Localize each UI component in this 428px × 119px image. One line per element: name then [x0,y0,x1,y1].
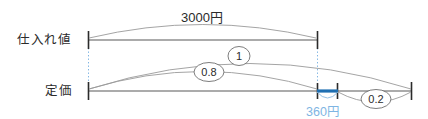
ratio-point2-badge-label: 0.2 [363,93,389,105]
list-price-row-label: 定価 [45,80,72,99]
ratio-one-arc [89,64,411,90]
segment-diagram-canvas: 仕入れ値 定価 3000円 360円 1 0.8 0.2 [0,0,428,119]
difference-arc-blue [317,92,338,98]
ratio-one-badge-label: 1 [231,50,247,62]
total-amount-label: 3000円 [181,7,223,26]
total-amount-arc [89,25,316,39]
cost-price-row-label: 仕入れ値 [17,29,71,48]
ratio-point8-badge-label: 0.8 [196,66,222,78]
difference-amount-label: 360円 [306,101,340,119]
